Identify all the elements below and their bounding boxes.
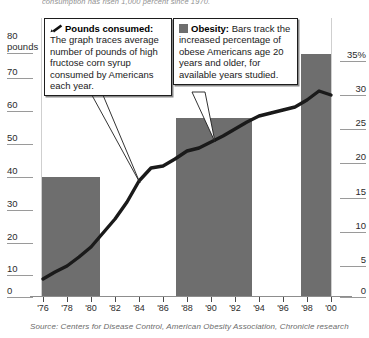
bar-swatch-icon <box>179 24 188 33</box>
callout-obesity-title: Obesity: <box>191 23 229 34</box>
callout-pounds-title: Pounds consumed: <box>65 23 153 34</box>
chart-figure: consumption has risen 1,000 percent sinc… <box>0 0 369 338</box>
callout-pounds-body: The graph traces average number of pound… <box>50 34 159 91</box>
callout-obesity: Obesity: Bars track the increased percen… <box>173 18 298 85</box>
leader-pounds <box>88 88 140 183</box>
leader-obesity <box>192 92 215 142</box>
callout-pounds-consumed: Pounds consumed: The graph traces averag… <box>44 18 172 96</box>
pencil-icon <box>50 24 63 33</box>
